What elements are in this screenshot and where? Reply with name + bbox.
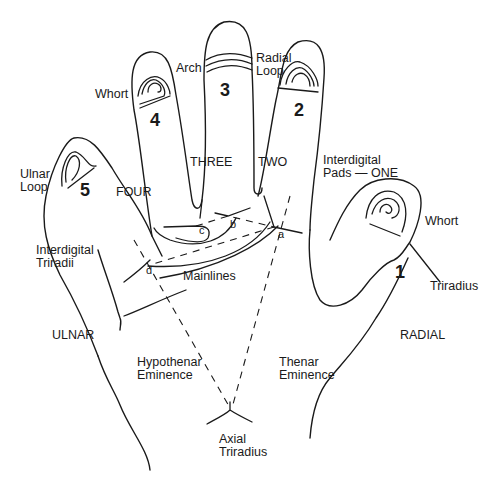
b-branch xyxy=(215,208,250,216)
mainline-inner xyxy=(154,218,236,244)
label-axial-2: Triradius xyxy=(219,446,267,459)
label-whort-1: Whort xyxy=(425,215,458,228)
digit-number-5: 5 xyxy=(80,180,90,201)
dashed-line-a-d xyxy=(150,227,274,265)
triradius-pointer xyxy=(410,244,440,282)
triradius-d: d xyxy=(146,264,152,276)
mainline-bottom xyxy=(124,290,186,316)
palm-radial-edge xyxy=(309,179,421,306)
label-radial-loop-2: Loop xyxy=(256,65,284,78)
label-area-two: TWO xyxy=(258,156,287,169)
label-ulnar: ULNAR xyxy=(52,329,94,342)
label-mainlines: Mainlines xyxy=(183,270,236,283)
arch-pattern-3 xyxy=(206,54,252,72)
digit-number-3: 3 xyxy=(220,80,230,101)
whorl-pattern-4 xyxy=(138,77,170,108)
ulnar-loop-pattern-5 xyxy=(62,152,96,188)
digit-number-1: 1 xyxy=(395,262,405,283)
palm-diagram: Arch Radial Loop Whort Ulnar Loop Whort … xyxy=(0,0,481,488)
finger-4-outline xyxy=(132,52,202,236)
radial-loop-pattern-2 xyxy=(278,62,318,92)
label-triradius: Triradius xyxy=(430,280,478,293)
digit-number-4: 4 xyxy=(150,110,160,131)
palm-ulnar-upper xyxy=(98,250,121,330)
mainline-outer xyxy=(148,222,270,267)
label-arch: Arch xyxy=(176,62,202,75)
label-area-three: THREE xyxy=(190,156,232,169)
label-interdigital-pads-2: Pads — ONE xyxy=(323,167,398,180)
label-interdigital-triradii-2: Triradii xyxy=(36,257,74,270)
finger-3-outline xyxy=(202,21,262,200)
axial-triradius-mark xyxy=(207,402,252,424)
label-whort-4: Whort xyxy=(95,88,128,101)
label-thenar-2: Eminence xyxy=(279,369,335,382)
digit-number-2: 2 xyxy=(294,100,304,121)
label-ulnar-loop-2: Loop xyxy=(20,181,48,194)
triradius-c: c xyxy=(199,224,205,236)
triradius-a: a xyxy=(278,228,284,240)
thumb-base-edge xyxy=(310,258,408,438)
triradius-b: b xyxy=(230,218,236,230)
label-area-four: FOUR xyxy=(116,186,151,199)
label-hypothenar-2: Eminence xyxy=(137,369,193,382)
label-radial: RADIAL xyxy=(400,329,445,342)
